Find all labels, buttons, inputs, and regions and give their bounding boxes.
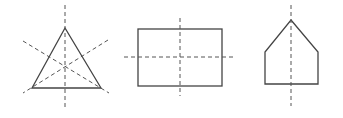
- symmetry-diagram: [0, 0, 343, 118]
- pentagon-figure: [265, 5, 318, 106]
- triangle-figure: [23, 5, 109, 108]
- rectangle-figure: [124, 18, 236, 96]
- equilateral-triangle: [32, 28, 101, 88]
